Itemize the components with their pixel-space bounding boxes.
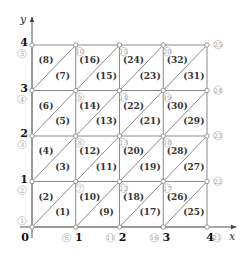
- mesh-node: [117, 179, 121, 183]
- y-tick-label: 4: [20, 36, 28, 49]
- node-number-text: 3: [20, 141, 24, 149]
- mesh-node: [30, 134, 34, 138]
- node-number: 15: [119, 48, 127, 57]
- node-number-text: 21: [213, 234, 221, 242]
- node-number-text: 13: [119, 139, 127, 147]
- node-number-text: 9: [78, 94, 82, 102]
- grid-diagonal-line: [76, 182, 120, 228]
- node-number-text: 14: [119, 94, 127, 102]
- node-number: 12: [119, 184, 127, 193]
- element-label: (21): [140, 116, 161, 126]
- element-label: (29): [183, 116, 204, 126]
- element-label: (2): [39, 192, 54, 202]
- node-number-text: 11: [106, 234, 114, 242]
- grid-diagonal-line: [32, 136, 76, 182]
- node-number: 2: [18, 186, 26, 195]
- node-number: 13: [119, 139, 127, 148]
- element-label: (6): [39, 101, 54, 111]
- node-number: 10: [76, 48, 84, 57]
- element-label: (32): [167, 55, 188, 65]
- x-tick-label: 3: [162, 231, 170, 244]
- mesh-node: [161, 225, 165, 229]
- y-tick-label: 2: [20, 127, 28, 140]
- element-label: (30): [167, 101, 188, 111]
- node-number-text: 4: [20, 96, 24, 104]
- grid-diagonal-line: [32, 91, 76, 137]
- element-label: (4): [39, 146, 54, 156]
- node-number: 8: [76, 139, 84, 148]
- mesh-node: [30, 88, 34, 92]
- element-label: (19): [140, 162, 161, 172]
- element-label: (15): [96, 71, 117, 81]
- mesh-node: [74, 88, 78, 92]
- mesh-node: [74, 225, 78, 229]
- element-label: (1): [55, 207, 70, 217]
- node-number: 22: [214, 177, 222, 186]
- mesh-node: [205, 225, 209, 229]
- node-number: 3: [18, 141, 26, 150]
- mesh-node: [161, 88, 165, 92]
- node-number: 7: [76, 184, 84, 193]
- x-axis-label: x: [229, 230, 236, 243]
- mesh-node: [205, 43, 209, 47]
- mesh-node: [74, 43, 78, 47]
- element-label: (31): [183, 71, 204, 81]
- grid-diagonal-line: [76, 136, 120, 182]
- mesh-node: [205, 88, 209, 92]
- element-label: (23): [140, 71, 161, 81]
- element-label: (25): [183, 207, 204, 217]
- mesh-node: [117, 43, 121, 47]
- element-label: (27): [183, 162, 204, 172]
- node-number: 25: [214, 41, 222, 50]
- element-label: (20): [123, 146, 144, 156]
- element-label: (24): [123, 55, 144, 65]
- element-label: (9): [99, 207, 114, 217]
- element-label: (18): [123, 192, 144, 202]
- y-tick-label: 1: [20, 173, 28, 186]
- mesh-node: [117, 225, 121, 229]
- element-label: (14): [79, 101, 100, 111]
- element-label: (17): [140, 207, 161, 217]
- node-number: 16: [150, 234, 158, 243]
- mesh-node: [205, 134, 209, 138]
- mesh-node: [205, 179, 209, 183]
- node-number-text: 2: [20, 187, 24, 195]
- y-axis-label: y: [19, 13, 27, 26]
- node-number: 23: [214, 132, 222, 141]
- mesh-node: [161, 43, 165, 47]
- grid-diagonal-line: [76, 91, 120, 137]
- node-number-text: 1: [20, 217, 24, 225]
- mesh-node: [117, 134, 121, 138]
- mesh-node: [161, 179, 165, 183]
- mesh-node: [117, 88, 121, 92]
- element-label: (28): [167, 146, 188, 156]
- node-number-text: 10: [76, 48, 84, 56]
- node-number-text: 20: [163, 48, 171, 56]
- element-label: (5): [55, 116, 70, 126]
- node-number: 18: [163, 139, 171, 148]
- mesh-node: [161, 134, 165, 138]
- x-tick-label: 4: [206, 231, 214, 244]
- mesh-node: [30, 179, 34, 183]
- node-number: 4: [18, 95, 26, 104]
- element-label: (7): [55, 71, 70, 81]
- node-number-text: 22: [214, 178, 222, 186]
- node-number-text: 8: [78, 139, 82, 147]
- node-number: 21: [213, 234, 221, 243]
- x-tick-label: 1: [75, 231, 83, 244]
- node-number: 1: [18, 217, 26, 226]
- mesh-node: [74, 179, 78, 183]
- node-number: 19: [163, 93, 171, 102]
- node-number: 6: [63, 234, 71, 243]
- node-number-text: 19: [163, 94, 171, 102]
- element-label: (12): [79, 146, 100, 156]
- element-label: (8): [39, 55, 54, 65]
- grid-diagonal-line: [32, 45, 76, 91]
- element-label: (11): [96, 162, 117, 172]
- node-number-text: 15: [119, 48, 127, 56]
- node-number-text: 7: [78, 185, 82, 193]
- node-number-text: 17: [163, 185, 171, 193]
- element-label: (10): [79, 192, 100, 202]
- mesh-node: [30, 43, 34, 47]
- node-number: 11: [106, 234, 114, 243]
